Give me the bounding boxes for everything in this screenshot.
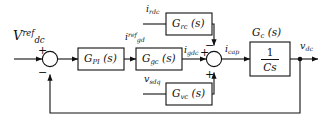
- control-block-diagram: Vrefdc + − GPI (s) irefgd Ggc (s) igdc i…: [0, 0, 326, 123]
- block-label-gvc: Gvc (s): [172, 88, 205, 101]
- signal-label-icap: icap: [225, 44, 239, 55]
- sum2-plus-bottom-sign: +: [205, 69, 214, 80]
- block-label-ggc: Ggc (s): [142, 53, 176, 66]
- plant-denominator: Cs: [252, 62, 288, 73]
- plant-transfer-function: 1 Cs: [252, 47, 288, 72]
- fraction-bar: [261, 59, 279, 60]
- plant-numerator: 1: [252, 47, 288, 58]
- block-label-gpi: GPI (s): [84, 53, 117, 66]
- input-label-vsdq: vsdq: [144, 74, 161, 85]
- sum1-minus-sign: −: [38, 67, 47, 78]
- block-label-gc-plant: Gc (s): [252, 27, 281, 40]
- input-label-irdc: irdc: [146, 4, 160, 15]
- output-label-vdc: vdc: [300, 41, 313, 52]
- signal-label-igd-ref: irefgd: [125, 32, 145, 43]
- sum2-plus-left-sign: +: [200, 47, 209, 58]
- input-label-vdc-ref: Vrefdc: [13, 29, 45, 44]
- signal-label-igdc: igdc: [184, 45, 199, 56]
- sum1-plus-sign: +: [38, 45, 47, 56]
- block-label-grc: Grc (s): [172, 18, 205, 31]
